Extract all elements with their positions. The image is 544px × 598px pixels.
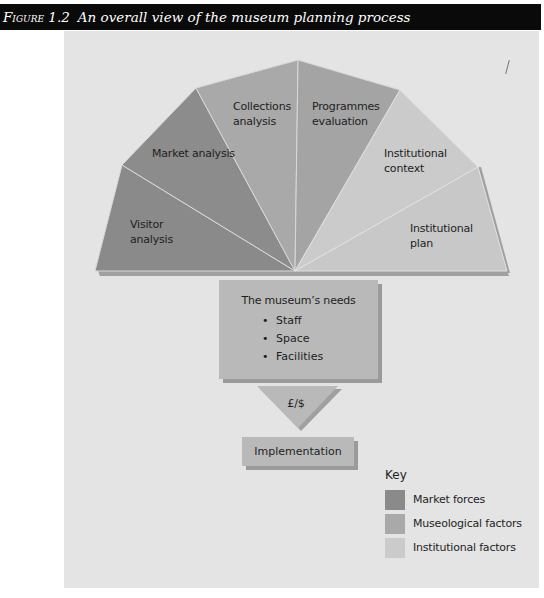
needs-item-label: Space: [276, 332, 310, 345]
label-line: Institutional: [384, 146, 447, 161]
needs-title: The museum’s needs: [219, 294, 378, 307]
funding-label: £/$: [276, 397, 316, 410]
needs-item-label: Staff: [276, 314, 302, 327]
swatch-institutional-factors: [385, 538, 405, 558]
label-programmes-evaluation: Programmes evaluation: [312, 99, 380, 129]
bullet-icon: •: [262, 330, 276, 348]
fan-shadow: [98, 271, 509, 276]
label-line: Programmes: [312, 99, 380, 114]
label-line: Market analysis: [152, 146, 235, 161]
label-line: Collections: [233, 99, 291, 114]
needs-item: •Staff: [262, 312, 323, 330]
key-title: Key: [385, 468, 407, 482]
implementation-box: Implementation: [242, 437, 354, 466]
label-line: analysis: [130, 232, 173, 247]
key-label: Market forces: [413, 493, 485, 506]
needs-item-label: Facilities: [276, 350, 323, 363]
label-line: plan: [410, 236, 473, 251]
needs-item: •Facilities: [262, 348, 323, 366]
label-line: Institutional: [410, 221, 473, 236]
label-visitor-analysis: Visitor analysis: [130, 217, 173, 247]
label-line: analysis: [233, 114, 291, 129]
swatch-museological-factors: [385, 514, 405, 534]
label-institutional-context: Institutional context: [384, 146, 447, 176]
museum-needs-box: The museum’s needs •Staff •Space •Facili…: [219, 280, 378, 379]
bullet-icon: •: [262, 348, 276, 366]
bullet-icon: •: [262, 312, 276, 330]
label-market-analysis: Market analysis: [152, 146, 235, 161]
label-institutional-plan: Institutional plan: [410, 221, 473, 251]
label-line: Visitor: [130, 217, 173, 232]
label-line: evaluation: [312, 114, 380, 129]
swatch-market-forces: [385, 490, 405, 510]
label-collections-analysis: Collections analysis: [233, 99, 291, 129]
needs-list: •Staff •Space •Facilities: [262, 312, 323, 366]
needs-item: •Space: [262, 330, 323, 348]
label-line: context: [384, 161, 447, 176]
key-label: Institutional factors: [413, 541, 516, 554]
key-label: Museological factors: [413, 517, 522, 530]
